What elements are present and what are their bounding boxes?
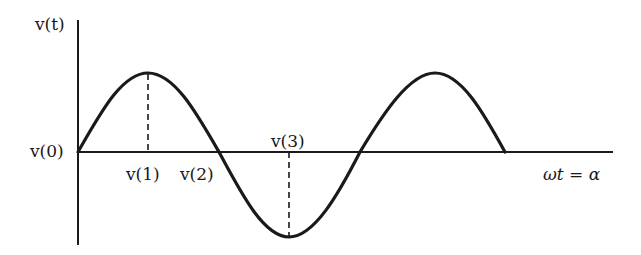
point-label-v3: v(3) bbox=[271, 131, 305, 151]
x-axis-label: ωt = α bbox=[543, 164, 600, 184]
y-axis-label: v(t) bbox=[35, 14, 65, 34]
point-label-v2: v(2) bbox=[180, 164, 214, 184]
point-label-v0: v(0) bbox=[30, 141, 64, 161]
sine-curve bbox=[78, 73, 505, 237]
sine-wave-diagram bbox=[0, 0, 641, 255]
point-label-v1: v(1) bbox=[126, 164, 160, 184]
